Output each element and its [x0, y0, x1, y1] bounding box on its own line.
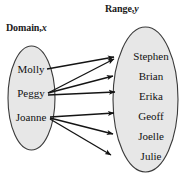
arrow-joanne-julie	[50, 119, 111, 155]
domain-label-text: Domain,	[6, 22, 42, 33]
arrow-joanne-geoff	[50, 113, 114, 117]
range-node-stephen: Stephen	[118, 50, 181, 62]
range-label-text: Range,	[105, 3, 134, 14]
domain-node-peggy: Peggy	[5, 87, 57, 99]
arrow-molly-stephen	[47, 57, 114, 69]
arrow-peggy-brian-extra	[48, 76, 113, 93]
domain-node-molly: Molly	[5, 63, 57, 75]
arrow-peggy-erika	[48, 92, 115, 95]
range-label-variable: y	[134, 3, 138, 14]
range-label: Range,y	[105, 3, 138, 14]
arrow-joanne-joelle	[50, 118, 113, 134]
range-node-joelle: Joelle	[118, 130, 181, 142]
range-node-erika: Erika	[118, 90, 181, 102]
range-node-julie: Julie	[118, 150, 181, 162]
domain-node-joanne: Joanne	[5, 111, 57, 123]
range-node-geoff: Geoff	[118, 110, 181, 122]
arrow-peggy-stephen	[48, 59, 114, 93]
domain-label-variable: x	[42, 22, 47, 33]
domain-label: Domain,x	[6, 22, 47, 33]
range-node-brian: Brian	[118, 70, 181, 82]
